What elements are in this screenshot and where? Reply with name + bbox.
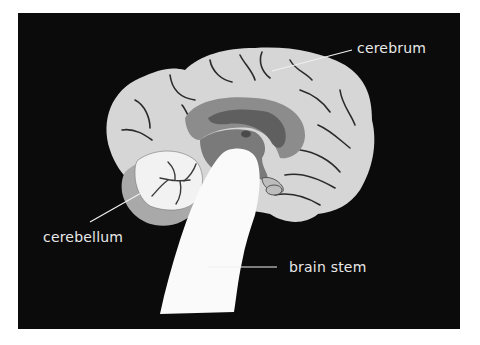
- cerebellum: [135, 151, 203, 210]
- label-cerebrum: cerebrum: [357, 41, 426, 55]
- label-brain-stem: brain stem: [289, 260, 366, 274]
- label-cerebellum: cerebellum: [43, 230, 123, 244]
